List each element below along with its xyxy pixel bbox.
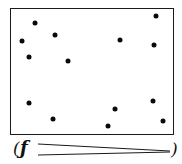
dot	[152, 43, 157, 48]
dot	[113, 107, 118, 112]
close-paren: )	[171, 139, 178, 159]
diagram-frame	[10, 8, 174, 135]
dot	[27, 101, 32, 106]
caption-row: ( ƒ )	[0, 138, 182, 162]
dot	[27, 55, 32, 60]
dot	[154, 14, 159, 19]
dot	[20, 39, 25, 44]
dot	[118, 38, 123, 43]
dot	[151, 99, 156, 104]
dot	[53, 33, 58, 38]
dot	[106, 124, 111, 129]
dot	[51, 117, 56, 122]
dot	[66, 59, 71, 64]
dot	[33, 21, 38, 26]
wedge-lines	[0, 138, 182, 162]
dot	[161, 119, 166, 124]
